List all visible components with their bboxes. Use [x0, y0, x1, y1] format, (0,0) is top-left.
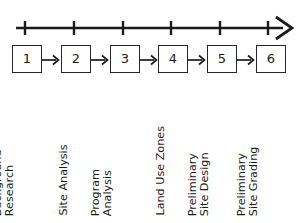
right-arrow-icon	[188, 53, 207, 67]
stage-connector-arrow-1-2	[42, 52, 61, 66]
stage-connector-arrow-4-5	[188, 52, 207, 66]
stage-connector-arrow-3-4	[140, 52, 159, 66]
stage-label-5-line-1: Preliminary	[187, 152, 199, 216]
stage-label-6: Preliminary Site Grading	[236, 146, 259, 216]
stage-label-3-line-2: Analysis	[101, 169, 113, 216]
stage-number-3: 3	[110, 45, 140, 73]
stage-label-3: Program Analysis	[90, 169, 113, 216]
right-arrow-icon	[140, 53, 159, 67]
stage-number-2: 2	[61, 45, 91, 73]
stage-label-3-line-1: Program	[90, 169, 102, 216]
stage-label-2: Site Analysis	[58, 145, 70, 216]
stage-box-row: 1 2 3	[12, 45, 290, 75]
stage-label-6-line-1: Preliminary	[236, 146, 248, 216]
stage-label-2-line-1: Site Analysis	[58, 145, 70, 216]
right-arrow-icon	[91, 53, 110, 67]
stage-label-1-line-2: Research	[3, 149, 15, 216]
time-axis-svg	[0, 0, 302, 45]
stage-number-4: 4	[158, 45, 188, 73]
time-axis	[0, 0, 302, 45]
right-arrow-icon	[237, 53, 256, 67]
stage-number-1: 1	[12, 45, 42, 73]
process-timeline-diagram: 1 2 3	[0, 0, 302, 223]
stage-connector-arrow-2-3	[91, 52, 110, 66]
stage-connector-arrow-5-6	[237, 52, 256, 66]
stage-label-4: Land Use Zones	[155, 126, 167, 216]
stage-label-1: Background Research	[0, 149, 15, 216]
right-arrow-icon	[42, 53, 61, 67]
stage-number-5: 5	[207, 45, 237, 73]
stage-label-5: Preliminary Site Design	[187, 152, 210, 216]
figure-caption	[4, 214, 204, 223]
stage-number-6: 6	[256, 45, 286, 73]
stage-label-row: Background Research Site Analysis Progra…	[0, 76, 302, 216]
stage-label-6-line-2: Site Grading	[247, 146, 259, 216]
stage-label-5-line-2: Site Design	[198, 152, 210, 216]
stage-label-4-line-1: Land Use Zones	[155, 126, 167, 216]
